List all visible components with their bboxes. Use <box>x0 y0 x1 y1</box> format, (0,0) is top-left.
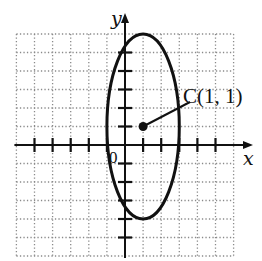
x-axis-label: x <box>243 147 254 169</box>
origin-label: 0 <box>109 148 118 167</box>
y-axis-label: y <box>110 7 122 29</box>
ellipse-diagram: y x 0 C(1, 1) <box>0 0 262 261</box>
center-label: C(1, 1) <box>183 84 243 108</box>
coordinate-axes <box>14 13 253 258</box>
center-point <box>139 122 148 131</box>
